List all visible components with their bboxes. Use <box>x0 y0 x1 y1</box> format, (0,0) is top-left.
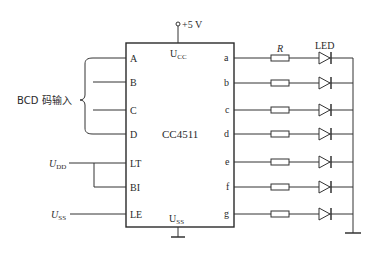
chip-ground: USS <box>169 213 185 237</box>
uss-input-label: USS <box>51 209 66 222</box>
vcc-supply: +5 V UCC <box>170 19 203 61</box>
pin-B: B <box>130 77 137 88</box>
pin-f: f <box>226 181 230 192</box>
resistor-icon <box>271 211 289 217</box>
udd-label: UDD <box>49 158 66 171</box>
pin-A: A <box>130 53 138 64</box>
resistor-icon <box>271 80 289 86</box>
led-diode-icon <box>319 181 330 193</box>
led-diode-icon <box>319 104 330 116</box>
pin-d: d <box>224 128 229 139</box>
led-diode-icon <box>319 77 330 89</box>
uss-chip-label: USS <box>169 213 184 226</box>
pin-D: D <box>130 129 137 140</box>
bcd-input-label: BCD 码输入 <box>17 94 72 106</box>
power-label: +5 V <box>182 19 203 30</box>
led-label: LED <box>315 40 334 51</box>
pin-LT: LT <box>130 158 141 169</box>
left-pins: A B C D LT BI LE <box>69 53 142 220</box>
pin-a: a <box>224 52 229 63</box>
bcd-brace-icon <box>80 58 93 134</box>
led-diode-icon <box>319 156 330 168</box>
vcc-terminal-icon <box>176 22 180 26</box>
chip-name: CC4511 <box>162 128 198 140</box>
pin-LE: LE <box>130 209 142 220</box>
pin-e: e <box>225 156 230 167</box>
circuit-diagram: CC4511 +5 V UCC USS A B C D LT BI LE BCD… <box>0 0 373 255</box>
pin-C: C <box>130 105 137 116</box>
pin-g: g <box>224 208 229 219</box>
output-branch-a <box>234 52 353 64</box>
output-branch-c <box>234 104 353 116</box>
output-branch-b <box>234 77 353 89</box>
output-branch-e <box>234 156 353 168</box>
led-diode-icon <box>319 52 330 64</box>
resistor-icon <box>271 159 289 165</box>
led-diode-icon <box>319 128 330 140</box>
resistor-icon <box>271 55 289 61</box>
pin-c: c <box>225 104 230 115</box>
resistor-icon <box>271 184 289 190</box>
pin-b: b <box>224 77 229 88</box>
resistor-icon <box>271 107 289 113</box>
resistor-label: R <box>276 43 283 54</box>
output-branch-g <box>234 208 353 220</box>
resistor-icon <box>271 131 289 137</box>
led-diode-icon <box>319 208 330 220</box>
ucc-label: UCC <box>170 48 187 61</box>
output-branch-d <box>234 128 353 140</box>
pin-BI: BI <box>130 182 140 193</box>
right-pin-labels: a b c d e f g <box>224 52 230 219</box>
output-branch-f <box>234 181 353 193</box>
